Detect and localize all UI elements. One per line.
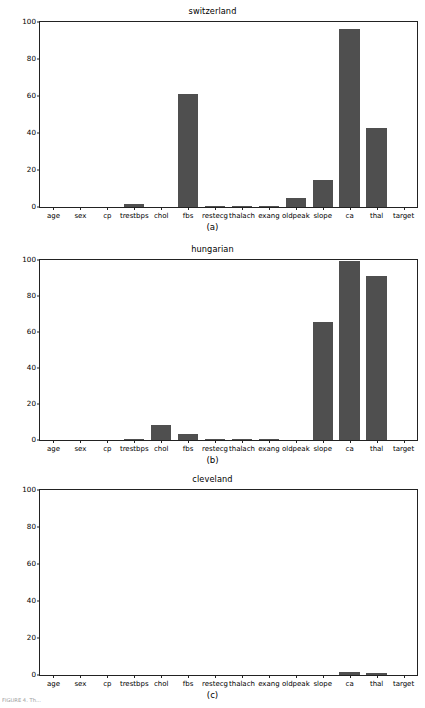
x-tick-label-fbs: fbs bbox=[183, 680, 194, 688]
x-tick-label-exang: exang bbox=[258, 445, 280, 453]
y-tick-label: 20 bbox=[27, 166, 36, 173]
x-tick-mark bbox=[296, 440, 297, 443]
bar-slot bbox=[67, 490, 94, 675]
y-tick-mark bbox=[37, 207, 40, 208]
y-tick-mark bbox=[37, 601, 40, 602]
bar-slot bbox=[309, 22, 336, 207]
bar-slot bbox=[175, 490, 202, 675]
bar-slot bbox=[229, 260, 256, 440]
x-tick-label-fbs: fbs bbox=[183, 212, 194, 220]
y-tick-label: 40 bbox=[27, 597, 36, 604]
subplot-cleveland: cleveland 020406080100agesexcptrestbpsch… bbox=[0, 468, 425, 708]
bars-cleveland bbox=[40, 490, 417, 675]
y-tick-mark bbox=[37, 22, 40, 23]
x-tick-label-trestbps: trestbps bbox=[120, 212, 149, 220]
x-tick-label-oldpeak: oldpeak bbox=[282, 680, 310, 688]
x-tick-label-chol: chol bbox=[154, 445, 169, 453]
y-tick-mark bbox=[37, 564, 40, 565]
x-tick-label-thal: thal bbox=[370, 680, 383, 688]
y-tick-mark bbox=[37, 332, 40, 333]
x-tick-mark bbox=[404, 675, 405, 678]
x-tick-mark bbox=[350, 440, 351, 443]
bar-slot bbox=[255, 490, 282, 675]
bar-ca bbox=[339, 29, 359, 207]
x-tick-label-oldpeak: oldpeak bbox=[282, 212, 310, 220]
x-tick-mark bbox=[161, 207, 162, 210]
x-tick-label-slope: slope bbox=[313, 445, 332, 453]
x-tick-mark bbox=[242, 440, 243, 443]
subplot-switzerland: switzerland 020406080100agesexcptrestbps… bbox=[0, 0, 425, 240]
y-tick-label: 40 bbox=[27, 364, 36, 371]
x-tick-mark bbox=[377, 440, 378, 443]
bar-slot bbox=[202, 22, 229, 207]
x-tick-label-exang: exang bbox=[258, 212, 280, 220]
bar-slot bbox=[148, 490, 175, 675]
x-tick-label-target: target bbox=[393, 680, 414, 688]
x-tick-label-target: target bbox=[393, 212, 414, 220]
x-tick-label-ca: ca bbox=[346, 445, 354, 453]
x-tick-mark bbox=[242, 675, 243, 678]
bar-slot bbox=[148, 260, 175, 440]
bar-slot bbox=[175, 260, 202, 440]
bar-slot bbox=[121, 22, 148, 207]
x-tick-mark bbox=[377, 675, 378, 678]
y-tick-mark bbox=[37, 133, 40, 134]
bar-slot bbox=[282, 490, 309, 675]
x-tick-label-sex: sex bbox=[74, 680, 86, 688]
x-tick-mark bbox=[269, 207, 270, 210]
bar-slope bbox=[313, 322, 333, 440]
bar-slot bbox=[336, 22, 363, 207]
y-tick-label: 20 bbox=[27, 400, 36, 407]
bar-slot bbox=[175, 22, 202, 207]
x-tick-label-ca: ca bbox=[346, 212, 354, 220]
bars-hungarian bbox=[40, 260, 417, 440]
y-tick-label: 0 bbox=[31, 671, 36, 678]
y-tick-label: 80 bbox=[27, 55, 36, 62]
x-tick-mark bbox=[323, 675, 324, 678]
bar-slot bbox=[390, 22, 417, 207]
y-tick-label: 20 bbox=[27, 634, 36, 641]
x-tick-mark bbox=[188, 675, 189, 678]
bar-slot bbox=[67, 260, 94, 440]
bar-slot bbox=[40, 22, 67, 207]
y-tick-mark bbox=[37, 260, 40, 261]
x-tick-mark bbox=[107, 440, 108, 443]
y-tick-mark bbox=[37, 440, 40, 441]
x-tick-label-cp: cp bbox=[103, 212, 111, 220]
bar-slot bbox=[121, 260, 148, 440]
y-tick-label: 80 bbox=[27, 523, 36, 530]
x-tick-label-ca: ca bbox=[346, 680, 354, 688]
x-tick-label-cp: cp bbox=[103, 445, 111, 453]
x-tick-mark bbox=[134, 675, 135, 678]
bar-slot bbox=[202, 260, 229, 440]
x-tick-label-restecg: restecg bbox=[202, 445, 228, 453]
bar-slot bbox=[202, 490, 229, 675]
subplot-title-hungarian: hungarian bbox=[0, 244, 425, 254]
bar-oldpeak bbox=[286, 198, 306, 207]
x-tick-label-trestbps: trestbps bbox=[120, 680, 149, 688]
bar-slot bbox=[40, 260, 67, 440]
panel-label-b: (b) bbox=[0, 455, 425, 465]
y-tick-label: 40 bbox=[27, 129, 36, 136]
x-tick-mark bbox=[53, 675, 54, 678]
plot-area-hungarian: 020406080100agesexcptrestbpscholfbsreste… bbox=[39, 259, 418, 441]
y-tick-label: 100 bbox=[22, 256, 36, 263]
x-tick-label-oldpeak: oldpeak bbox=[282, 445, 310, 453]
bar-thal bbox=[366, 128, 386, 207]
bar-slot bbox=[336, 490, 363, 675]
x-tick-mark bbox=[323, 440, 324, 443]
bar-ca bbox=[339, 261, 359, 440]
y-tick-label: 60 bbox=[27, 328, 36, 335]
x-tick-mark bbox=[53, 207, 54, 210]
bar-slot bbox=[363, 260, 390, 440]
bar-slope bbox=[313, 180, 333, 207]
plot-area-switzerland: 020406080100agesexcptrestbpscholfbsreste… bbox=[39, 21, 418, 208]
x-tick-mark bbox=[404, 207, 405, 210]
bar-slot bbox=[229, 490, 256, 675]
x-tick-mark bbox=[350, 675, 351, 678]
bar-slot bbox=[336, 260, 363, 440]
x-tick-mark bbox=[269, 675, 270, 678]
bar-slot bbox=[309, 260, 336, 440]
x-tick-label-fbs: fbs bbox=[183, 445, 194, 453]
x-tick-label-thalach: thalach bbox=[229, 680, 255, 688]
